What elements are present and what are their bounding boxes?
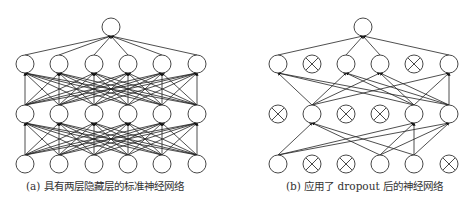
neuron-node <box>102 18 120 36</box>
neuron-node <box>119 105 137 123</box>
neuron-node <box>85 155 103 173</box>
neuron-node <box>50 105 68 123</box>
neuron-node <box>269 55 287 73</box>
connection-edge <box>312 123 380 155</box>
connection-edge <box>312 123 414 155</box>
neuron-node <box>119 55 137 73</box>
connection-edge <box>380 123 449 155</box>
connection-edge <box>278 36 363 55</box>
neuron-node <box>119 155 137 173</box>
neuron-node <box>405 155 423 173</box>
neuron-node <box>337 55 355 73</box>
caption-dropout-network: (b) 应用了 dropout 后的神经网络 <box>286 178 443 193</box>
connection-edge <box>278 123 312 155</box>
neuron-node <box>153 155 171 173</box>
network-edges <box>278 36 449 155</box>
neuron-node <box>153 55 171 73</box>
neuron-node <box>188 55 206 73</box>
neuron-node <box>16 105 34 123</box>
neuron-node <box>16 55 34 73</box>
connection-edge <box>312 73 346 105</box>
connection-edge <box>25 36 111 55</box>
neuron-node <box>50 55 68 73</box>
neuron-node <box>188 155 206 173</box>
network-nodes <box>269 18 458 173</box>
neuron-node <box>371 155 389 173</box>
neuron-node <box>50 155 68 173</box>
connection-edge <box>380 73 449 105</box>
connection-edge <box>278 73 449 105</box>
connection-edge <box>278 73 414 105</box>
neuron-node <box>354 18 372 36</box>
connection-edge <box>278 73 312 105</box>
network-edges <box>25 36 197 155</box>
neuron-node <box>405 105 423 123</box>
standard-network-panel <box>16 18 206 173</box>
neuron-node <box>85 55 103 73</box>
connection-edge <box>363 36 449 55</box>
connection-edge <box>414 123 449 155</box>
neuron-node <box>85 105 103 123</box>
neuron-node <box>153 105 171 123</box>
dropout-network-panel <box>269 18 458 173</box>
connection-edge <box>346 73 414 105</box>
neuron-node <box>188 105 206 123</box>
connection-edge <box>380 123 414 155</box>
neuron-node <box>440 55 458 73</box>
connection-edge <box>414 73 449 105</box>
neuron-node <box>371 55 389 73</box>
caption-standard-network: (a) 具有两层隐藏层的标准神经网络 <box>26 178 184 193</box>
neuron-node <box>269 155 287 173</box>
neuron-node <box>303 105 321 123</box>
neuron-node <box>440 105 458 123</box>
neuron-node <box>16 155 34 173</box>
